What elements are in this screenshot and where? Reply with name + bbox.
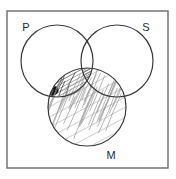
venn-diagram-figure: P S M — [0, 0, 176, 179]
venn-diagram-canvas: P S M — [0, 0, 176, 179]
circle-label-m: M — [106, 149, 115, 161]
circle-label-s: S — [142, 21, 149, 33]
circle-label-p: P — [22, 21, 29, 33]
